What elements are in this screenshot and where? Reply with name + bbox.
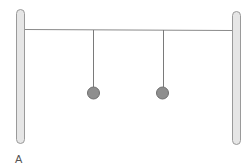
pendulum-bob-1: [88, 87, 100, 99]
diagram-label: A: [15, 153, 22, 165]
pendulum-diagram: [0, 0, 251, 167]
horizontal-bar: [25, 30, 232, 31]
left-post: [17, 10, 25, 144]
pendulum-bob-2: [157, 87, 169, 99]
right-post: [233, 12, 241, 145]
